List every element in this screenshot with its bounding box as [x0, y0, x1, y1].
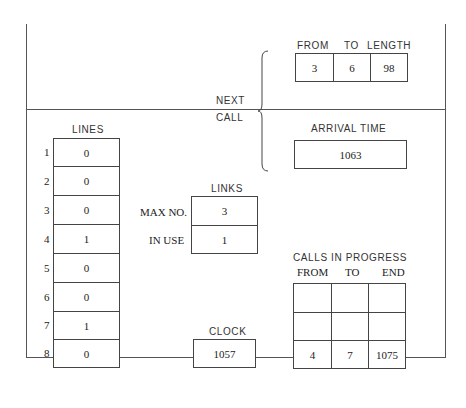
next-call-to-header: TO — [344, 40, 359, 51]
line-cell: 0 — [53, 253, 120, 283]
line-number: 6 — [44, 291, 50, 303]
calls-from-header: FROM — [297, 266, 328, 278]
line-cell: 0 — [53, 339, 120, 368]
calls-cell — [331, 283, 369, 313]
calls-to-header: TO — [345, 266, 359, 278]
next-call-from-cell: 3 — [295, 53, 334, 82]
calls-cell — [331, 312, 369, 341]
next-call-label-next: NEXT — [216, 95, 245, 106]
line-number: 1 — [44, 146, 50, 158]
clock-cell: 1057 — [193, 339, 256, 368]
line-cell: 0 — [53, 282, 120, 312]
arrival-time-label: ARRIVAL TIME — [311, 123, 386, 134]
line-cell: 1 — [53, 224, 120, 254]
calls-cell: 4 — [293, 340, 332, 369]
line-cell: 0 — [53, 195, 120, 225]
max-no-cell: 3 — [191, 196, 258, 226]
in-use-label: IN USE — [149, 234, 184, 246]
next-call-length-header: LENGTH — [367, 40, 411, 51]
calls-cell — [368, 283, 406, 313]
line-number: 7 — [44, 319, 50, 331]
line-cell: 1 — [53, 311, 120, 340]
calls-cell: 7 — [331, 340, 369, 369]
max-no-label: MAX NO. — [140, 206, 187, 218]
in-use-cell: 1 — [191, 225, 258, 254]
calls-end-header: END — [382, 266, 405, 278]
calls-cell — [293, 312, 332, 341]
section-divider — [26, 109, 445, 110]
brace-icon — [258, 50, 272, 172]
calls-cell — [293, 283, 332, 313]
arrival-time-cell: 1063 — [294, 140, 407, 169]
line-number: 2 — [44, 175, 50, 187]
line-number: 5 — [44, 262, 50, 274]
line-number: 4 — [44, 233, 50, 245]
calls-cell — [368, 312, 406, 341]
calls-in-progress-title: CALLS IN PROGRESS — [293, 252, 407, 263]
line-number: 8 — [44, 347, 50, 359]
calls-cell: 1075 — [368, 340, 406, 369]
line-cell: 0 — [53, 166, 120, 196]
next-call-from-header: FROM — [297, 40, 329, 51]
line-cell: 0 — [53, 138, 120, 167]
links-title: LINKS — [211, 183, 243, 194]
next-call-to-cell: 6 — [333, 53, 371, 82]
lines-title: LINES — [72, 124, 104, 135]
next-call-label-call: CALL — [216, 112, 243, 123]
line-number: 3 — [44, 204, 50, 216]
clock-title: CLOCK — [209, 326, 246, 337]
next-call-length-cell: 98 — [370, 53, 408, 82]
